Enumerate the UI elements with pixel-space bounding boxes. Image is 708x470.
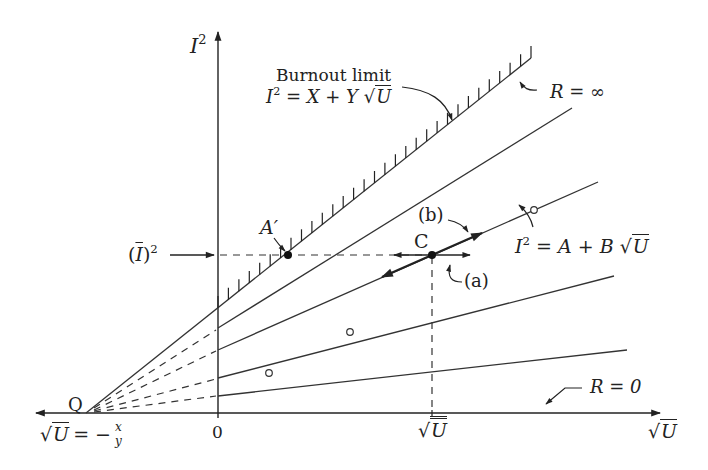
point-a-prime [284, 251, 292, 259]
points [266, 207, 538, 377]
burnout-title: Burnout limit [276, 67, 391, 84]
dashed-extensions [94, 330, 216, 412]
open-point-3 [531, 207, 538, 214]
dashed-guides [220, 255, 432, 413]
r-infinity-label: R = ∞ [550, 83, 605, 101]
a-prime-label: A′ [260, 218, 278, 237]
c-arrow-down-line [382, 255, 432, 277]
i-bar-squared-label: (I)2 [128, 244, 158, 264]
line-equation: I2 = A + B √U [515, 236, 649, 256]
point-c-label: C [414, 232, 429, 251]
x-axis-label: √U [648, 422, 677, 441]
label-a: (a) [464, 272, 489, 290]
burnout-limit-line [86, 58, 531, 413]
a-prime-leader-2 [274, 238, 285, 251]
burnout-equation: I2 = X + Y √U [266, 86, 391, 106]
r-zero-label: R = 0 [590, 378, 642, 396]
c-arrow-up-line [432, 233, 482, 255]
negative-intercept-label: √U = − xy [40, 421, 122, 447]
a-leader [449, 265, 462, 282]
r-zero-leader [546, 388, 582, 404]
r-infinity-leader [520, 82, 537, 90]
origin-label: 0 [212, 424, 223, 441]
line-5 [218, 350, 627, 396]
open-point-1 [266, 370, 273, 377]
y-axis-label: I2 [190, 33, 207, 57]
burnout-leader [402, 87, 452, 120]
open-point-2 [347, 329, 354, 336]
u-bar-label: √U [418, 421, 447, 440]
b-leader [448, 220, 468, 232]
point-q-label: Q [68, 396, 83, 414]
point-c [428, 251, 436, 259]
label-b: (b) [418, 206, 444, 224]
